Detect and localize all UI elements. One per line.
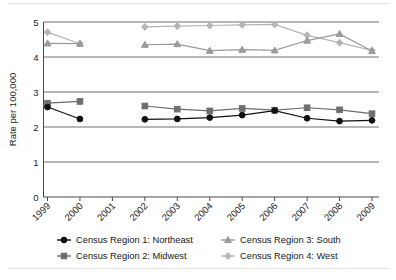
figure: 0123451999200020012002200320042005200620… (0, 0, 396, 280)
data-point-northeast (45, 104, 51, 110)
y-tick-label: 2 (33, 122, 38, 133)
x-tick-label: 2004 (192, 200, 215, 223)
data-point-west (207, 22, 213, 29)
legend-label-northeast: Census Region 1: Northeast (76, 235, 193, 245)
series-line-midwest (48, 101, 80, 103)
data-point-midwest (369, 111, 375, 117)
data-point-west (44, 29, 50, 36)
data-point-midwest (77, 99, 83, 105)
x-tick-label: 1999 (30, 200, 53, 223)
legend-item-south[interactable]: Census Region 3: South (221, 235, 341, 245)
data-point-northeast (239, 112, 245, 118)
x-tick-label: 2009 (354, 200, 377, 223)
x-axis: 1999200020012002200320042005200620072008… (30, 197, 377, 223)
data-point-midwest (142, 103, 148, 109)
data-point-northeast (369, 117, 375, 123)
x-tick-label: 2007 (289, 200, 312, 223)
data-point-northeast (304, 115, 310, 121)
legend-label-south: Census Region 3: South (240, 235, 341, 245)
y-tick-label: 3 (33, 87, 38, 98)
legend-label-west: Census Region 4: West (240, 251, 338, 261)
y-tick-label: 1 (33, 157, 38, 168)
x-tick-label: 2000 (62, 200, 85, 223)
data-point-west (142, 23, 148, 30)
x-tick-label: 2006 (257, 200, 280, 223)
data-point-northeast (337, 118, 343, 124)
data-point-northeast (142, 116, 148, 122)
data-point-midwest (239, 106, 245, 112)
data-point-west (336, 39, 342, 46)
data-point-midwest (337, 107, 343, 113)
y-tick-label: 5 (33, 17, 38, 28)
data-point-northeast (174, 116, 180, 122)
y-tick-label: 4 (33, 52, 38, 63)
data-point-northeast (272, 108, 278, 114)
x-tick-label: 2003 (159, 200, 182, 223)
legend-label-midwest: Census Region 2: Midwest (76, 251, 187, 261)
chart-legend: Census Region 1: NortheastCensus Region … (57, 235, 341, 261)
x-tick-label: 2008 (322, 200, 345, 223)
data-point-south (336, 31, 343, 37)
data-point-midwest (207, 108, 213, 114)
data-point-northeast (207, 115, 213, 121)
legend-item-midwest[interactable]: Census Region 2: Midwest (57, 251, 187, 261)
y-axis-title: Rate per 100,000 (7, 73, 18, 146)
chart-plot-area: 0123451999200020012002200320042005200620… (0, 0, 396, 280)
data-point-midwest (175, 106, 181, 112)
data-point-midwest (304, 105, 310, 111)
legend-item-northeast[interactable]: Census Region 1: Northeast (57, 235, 193, 245)
legend-swatch-marker-midwest (61, 253, 67, 259)
line-chart: 0123451999200020012002200320042005200620… (0, 0, 396, 280)
data-point-west (174, 23, 180, 30)
series-midwest (45, 99, 375, 117)
legend-item-west[interactable]: Census Region 4: West (221, 251, 338, 261)
x-tick-label: 2005 (224, 200, 247, 223)
y-tick-label: 0 (33, 192, 38, 203)
legend-swatch-marker-northeast (61, 237, 67, 243)
series-south (44, 31, 375, 54)
legend-swatch-marker-west (225, 253, 231, 260)
x-tick-label: 2002 (127, 200, 150, 223)
series-line-west (48, 32, 80, 44)
series-line-northeast (48, 107, 80, 119)
data-point-northeast (77, 116, 83, 122)
x-tick-label: 2001 (95, 200, 118, 223)
